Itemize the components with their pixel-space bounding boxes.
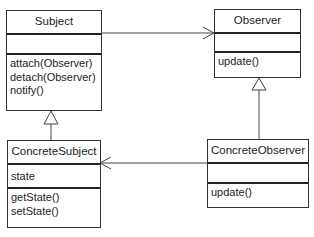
methods-section: update() [215, 53, 300, 71]
method: setState() [11, 205, 97, 219]
attributes-section [208, 164, 308, 184]
method: notify() [10, 84, 98, 98]
hollow-triangle-icon [252, 78, 266, 90]
method: update() [218, 55, 297, 69]
class-concrete-observer: ConcreteObserver update() [207, 139, 309, 208]
class-name: Subject [7, 11, 101, 35]
class-name: Observer [215, 10, 300, 34]
hollow-triangle-icon [44, 111, 58, 124]
methods-section: update() [208, 184, 308, 202]
class-subject: Subject attach(Observer) detach(Observer… [6, 10, 102, 111]
method: detach(Observer) [10, 71, 98, 85]
class-observer: Observer update() [214, 9, 301, 78]
attributes-section [215, 34, 300, 53]
methods-section: attach(Observer) detach(Observer) notify… [7, 55, 101, 100]
attributes-section: state [8, 165, 100, 189]
class-name: ConcreteSubject [8, 141, 100, 165]
method: attach(Observer) [10, 57, 98, 71]
attributes-section [7, 35, 101, 55]
method: getState() [11, 191, 97, 205]
method: update() [211, 186, 305, 200]
methods-section: getState() setState() [8, 189, 100, 220]
class-name: ConcreteObserver [208, 140, 308, 164]
attribute: state [11, 167, 97, 185]
class-concrete-subject: ConcreteSubject state getState() setStat… [7, 140, 101, 228]
